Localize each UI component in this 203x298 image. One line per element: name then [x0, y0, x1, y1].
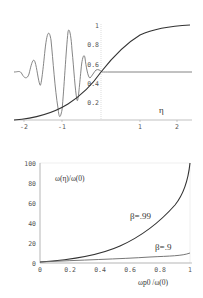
- bottom-y-tick: 40: [28, 220, 36, 228]
- bottom-y-tick: 60: [28, 200, 36, 208]
- top-y-tick: 1: [95, 22, 99, 30]
- bottom-y-tick: 100: [24, 160, 36, 168]
- series-label-beta-9: β=.9: [155, 242, 172, 252]
- bottom-y-tick: 80: [28, 180, 36, 188]
- bottom-chart: 0 0.2 0.4 0.6 0.8 1 0 20 40 60 80 100 ω(…: [24, 160, 192, 287]
- bottom-y-label: ω(η)/ω(0): [55, 174, 85, 183]
- bottom-y-tick: 20: [28, 240, 36, 248]
- figure: -2 -1 1 2 0.2 0.4 0.6 0.8 1 η 0 0.2 0.4 …: [0, 0, 203, 298]
- top-x-tick: 2: [175, 123, 179, 131]
- series-label-beta-99: β=.99: [130, 211, 151, 221]
- top-y-tick: 0.6: [87, 61, 99, 69]
- bottom-x-tick: 0: [38, 266, 42, 274]
- bottom-y-tick: 0: [32, 260, 36, 268]
- top-x-tick: -2: [20, 123, 28, 131]
- bottom-x-tick: 0.2: [64, 266, 76, 274]
- top-y-tick: 0.8: [87, 41, 99, 49]
- bottom-x-tick: 0.6: [124, 266, 136, 274]
- top-y-tick: 0.2: [87, 99, 99, 107]
- top-chart: -2 -1 1 2 0.2 0.4 0.6 0.8 1 η: [14, 22, 192, 131]
- top-x-label: η: [159, 105, 164, 115]
- bottom-x-tick: 0.4: [94, 266, 106, 274]
- wave-packet-curve: [14, 30, 192, 117]
- bottom-x-tick: 0.8: [154, 266, 166, 274]
- beta-9-curve: [40, 253, 190, 262]
- top-x-tick: 1: [138, 123, 142, 131]
- top-x-tick: -1: [58, 123, 66, 131]
- bottom-x-tick: 1: [188, 266, 192, 274]
- bottom-x-label: ωp0 /ω(0): [138, 278, 169, 287]
